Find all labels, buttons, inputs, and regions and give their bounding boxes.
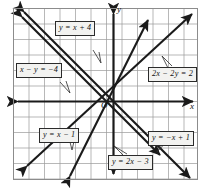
x-axis-label: x xyxy=(190,101,194,111)
callout-y-eq-2x-minus-3: y = 2x − 3 xyxy=(108,155,153,170)
callout-y-eq-neg-x-plus-1: y = −x + 1 xyxy=(148,131,194,146)
callout-x-minus-y-eq-neg4: x − y = −4 xyxy=(16,63,62,78)
callout-2x-minus-2y-eq-2: 2x − 2y = 2 xyxy=(148,67,197,82)
origin-label: O xyxy=(101,100,108,110)
coordinate-graph-figure: y x O y = x + 4 x − y = −4 2x − 2y = 2 y… xyxy=(0,0,221,195)
y-axis-label: y xyxy=(117,4,121,14)
callout-y-eq-x-plus-4: y = x + 4 xyxy=(55,21,95,36)
callout-y-eq-x-minus-1: y = x − 1 xyxy=(39,128,79,143)
